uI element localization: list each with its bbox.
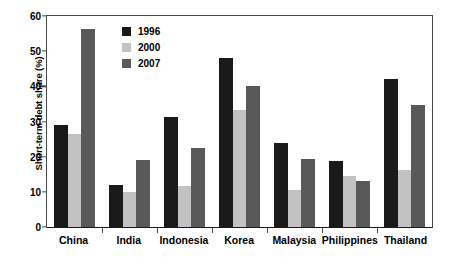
x-axis-tick-mark	[377, 227, 378, 233]
bar-group	[47, 16, 102, 227]
x-axis-category-label: India	[101, 234, 156, 246]
y-axis-title: Short-term debt share (%)	[33, 14, 44, 214]
bar-chart: Short-term debt share (%) 0102030405060 …	[0, 0, 455, 265]
x-axis-category-label: Malaysia	[267, 234, 322, 246]
bar	[398, 170, 412, 227]
bar	[343, 176, 357, 227]
bar-group	[267, 16, 322, 227]
x-axis-tick-mark	[102, 227, 103, 233]
x-axis-category-label: Indonesia	[156, 234, 211, 246]
bar	[233, 110, 247, 227]
bar-group	[157, 16, 212, 227]
plot-area: 0102030405060	[46, 15, 433, 228]
x-axis-category-label: Philippines	[322, 234, 378, 246]
x-axis-category-label: Thailand	[378, 234, 433, 246]
bar	[329, 161, 343, 227]
x-axis-category-label: Korea	[212, 234, 267, 246]
x-axis-labels: ChinaIndiaIndonesiaKoreaMalaysiaPhilippi…	[46, 234, 433, 246]
bar	[356, 181, 370, 227]
bar	[411, 105, 425, 227]
legend-label: 1996	[138, 26, 160, 37]
bar	[81, 29, 95, 227]
legend-item: 2007	[122, 56, 160, 70]
x-axis-tick-mark	[267, 227, 268, 233]
bar	[164, 117, 178, 227]
legend-item: 2000	[122, 40, 160, 54]
legend-swatch-icon	[122, 43, 131, 52]
bar	[191, 148, 205, 227]
legend-label: 2007	[138, 58, 160, 69]
bar-group-inner	[329, 16, 371, 227]
bar-group-inner	[164, 16, 206, 227]
bar	[136, 160, 150, 227]
legend-swatch-icon	[122, 27, 131, 36]
legend-label: 2000	[138, 42, 160, 53]
bar	[246, 86, 260, 227]
bar	[219, 58, 233, 228]
bar-group	[377, 16, 432, 227]
bar	[274, 143, 288, 227]
bar-group	[212, 16, 267, 227]
bars-layer	[47, 16, 432, 227]
bar	[109, 185, 123, 227]
x-axis-tick-mark	[322, 227, 323, 233]
legend: 199620002007	[122, 24, 160, 72]
bar	[123, 192, 137, 227]
bar-group-inner	[384, 16, 426, 227]
bar	[54, 125, 68, 227]
legend-swatch-icon	[122, 59, 131, 68]
x-axis-tick-mark	[212, 227, 213, 233]
legend-item: 1996	[122, 24, 160, 38]
bar-group-inner	[274, 16, 316, 227]
bar-group-inner	[219, 16, 261, 227]
bar-group	[322, 16, 377, 227]
bar	[68, 134, 82, 227]
bar	[288, 190, 302, 227]
x-axis-category-label: China	[46, 234, 101, 246]
bar	[301, 159, 315, 227]
bar	[384, 79, 398, 227]
bar-group-inner	[54, 16, 96, 227]
bar	[178, 186, 192, 227]
x-axis-tick-mark	[157, 227, 158, 233]
